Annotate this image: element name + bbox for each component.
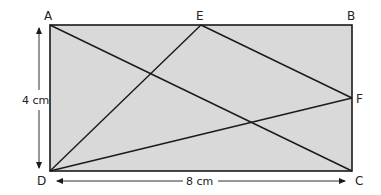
vertex-label-e: E [196, 9, 204, 23]
rectangle-diagram: 4 cm 8 cm A B C D E F [0, 0, 381, 195]
width-dimension-label: 8 cm [186, 175, 213, 188]
vertex-label-d: D [37, 174, 46, 188]
vertex-label-b: B [347, 9, 355, 23]
height-dimension-label: 4 cm [22, 94, 49, 107]
vertex-label-f: F [356, 92, 363, 106]
vertex-label-c: C [355, 174, 363, 188]
vertex-label-a: A [44, 9, 53, 23]
